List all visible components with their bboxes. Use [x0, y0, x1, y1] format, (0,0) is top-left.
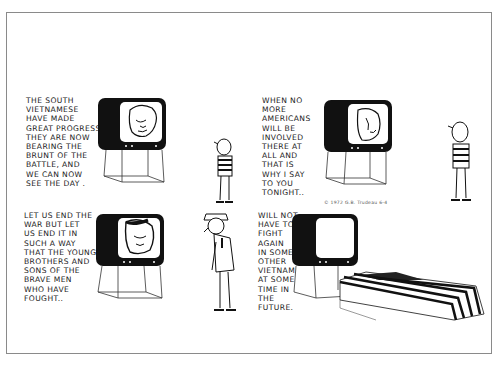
- flag-draped-coffin: [336, 270, 486, 322]
- tv-set-panel-2: [322, 98, 402, 188]
- panel-1-caption: The South Vietnamese have made great pro…: [26, 96, 101, 188]
- tv-set-panel-1: [96, 96, 176, 186]
- panel-2-caption: When no more Americans will be involved …: [262, 96, 311, 197]
- boy-figure-panel-2: [446, 120, 476, 206]
- signature: © 1972 G.B. Trudeau 6-4: [324, 200, 387, 205]
- boy-figure-panel-1: [210, 138, 240, 208]
- soldier-figure-panel-3: [200, 208, 244, 316]
- tv-set-panel-3: [94, 212, 174, 302]
